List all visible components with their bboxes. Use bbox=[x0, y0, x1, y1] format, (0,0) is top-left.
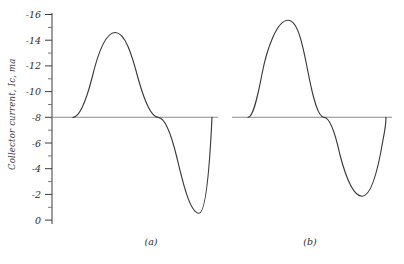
y-tick-label: -14 bbox=[26, 35, 41, 46]
figure-container: Collector current, Ic, ma -16 bbox=[0, 0, 404, 264]
y-axis-tick-labels: -16 -14 -12 -10 -8 -6 -4 -2 0 bbox=[26, 9, 41, 226]
y-tick-label: -6 bbox=[32, 138, 41, 149]
panel-caption-a: (a) bbox=[144, 236, 157, 247]
y-tick-label: -10 bbox=[26, 86, 41, 97]
y-axis-major-ticks bbox=[45, 15, 52, 221]
y-tick-label: -2 bbox=[32, 189, 41, 200]
waveform-b bbox=[248, 20, 386, 196]
y-axis-label: Collector current, Ic, ma bbox=[7, 59, 17, 170]
y-tick-label: 0 bbox=[35, 215, 41, 226]
panel-caption-b: (b) bbox=[303, 236, 317, 247]
waveform-a bbox=[73, 32, 212, 213]
y-tick-label: -12 bbox=[26, 60, 41, 71]
y-tick-label: -4 bbox=[32, 163, 41, 174]
waveform-chart: Collector current, Ic, ma -16 bbox=[0, 0, 404, 264]
y-tick-label: -16 bbox=[26, 9, 41, 20]
y-tick-label: -8 bbox=[32, 112, 41, 123]
